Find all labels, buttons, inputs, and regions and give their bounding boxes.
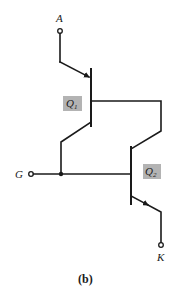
q2-label: Q2 bbox=[143, 164, 161, 179]
terminal-g-node bbox=[29, 172, 34, 177]
terminal-k-label: K bbox=[156, 251, 165, 263]
wire-q2-emitter-to-k bbox=[146, 204, 161, 243]
terminal-a-node bbox=[58, 29, 63, 34]
terminal-k: K bbox=[156, 243, 165, 263]
terminal-a-label: A bbox=[55, 12, 63, 24]
wire-q1-base-to-q2-collector bbox=[91, 101, 161, 149]
q1-emitter-arrow bbox=[60, 62, 89, 77]
thyristor-equivalent-circuit: A Q1 G Q2 K (b) bbox=[0, 0, 172, 299]
junction-dot bbox=[59, 172, 63, 176]
terminal-a: A bbox=[55, 12, 63, 33]
terminal-k-node bbox=[159, 243, 164, 248]
figure-caption: (b) bbox=[78, 272, 93, 286]
wire-q1-collector-to-gate bbox=[61, 122, 91, 174]
q1-label: Q1 bbox=[63, 96, 82, 111]
terminal-g-label: G bbox=[15, 168, 23, 180]
terminal-g: G bbox=[15, 168, 33, 180]
